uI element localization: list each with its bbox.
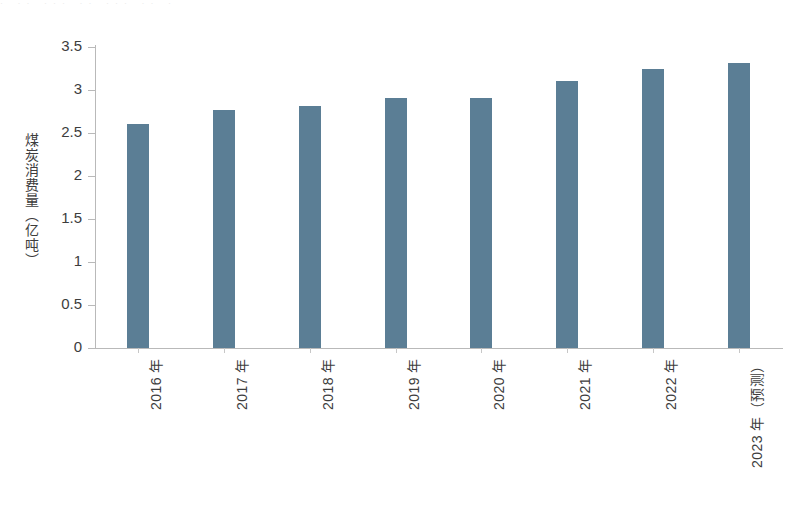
x-tick-label: 2022 年 xyxy=(660,358,680,410)
bar xyxy=(299,106,321,348)
bar xyxy=(556,81,578,348)
x-tick-label: 2018 年 xyxy=(317,358,337,410)
x-tick-mark xyxy=(481,348,482,353)
x-tick-mark xyxy=(653,348,654,353)
x-tick-label: 2019 年 xyxy=(403,358,423,410)
y-tick-mark xyxy=(88,176,95,177)
y-tick-mark xyxy=(88,90,95,91)
x-tick-mark xyxy=(567,348,568,353)
bar xyxy=(470,98,492,348)
y-tick-mark xyxy=(88,348,95,349)
y-tick-label: 3 xyxy=(40,80,82,97)
y-tick-mark xyxy=(88,219,95,220)
x-tick-mark xyxy=(739,348,740,353)
y-tick-label: 2.5 xyxy=(40,123,82,140)
x-tick-mark xyxy=(310,348,311,353)
plot-area xyxy=(95,47,782,348)
bar xyxy=(385,98,407,348)
y-tick-label: 1.5 xyxy=(40,209,82,226)
bar xyxy=(127,124,149,348)
bar xyxy=(213,110,235,348)
x-axis-line xyxy=(95,348,783,349)
y-tick-label: 0.5 xyxy=(40,295,82,312)
y-tick-label: 3.5 xyxy=(40,37,82,54)
bar xyxy=(642,69,664,348)
coal-consumption-bar-chart: 煤炭消费量（亿吨） 00.511.522.533.5 2016 年2017 年2… xyxy=(0,0,792,507)
y-tick-label: 0 xyxy=(40,338,82,355)
y-tick-mark xyxy=(88,133,95,134)
x-tick-label: 2023 年（预测） xyxy=(746,358,766,468)
x-tick-label: 2016 年 xyxy=(145,358,165,410)
x-tick-mark xyxy=(224,348,225,353)
y-tick-label: 1 xyxy=(40,252,82,269)
y-tick-mark xyxy=(88,305,95,306)
x-tick-label: 2021 年 xyxy=(574,358,594,410)
x-tick-label: 2017 年 xyxy=(231,358,251,410)
y-tick-mark xyxy=(88,47,95,48)
y-tick-mark xyxy=(88,262,95,263)
bar xyxy=(728,63,750,348)
y-tick-label: 2 xyxy=(40,166,82,183)
x-tick-mark xyxy=(396,348,397,353)
x-tick-label: 2020 年 xyxy=(488,358,508,410)
x-tick-mark xyxy=(138,348,139,353)
